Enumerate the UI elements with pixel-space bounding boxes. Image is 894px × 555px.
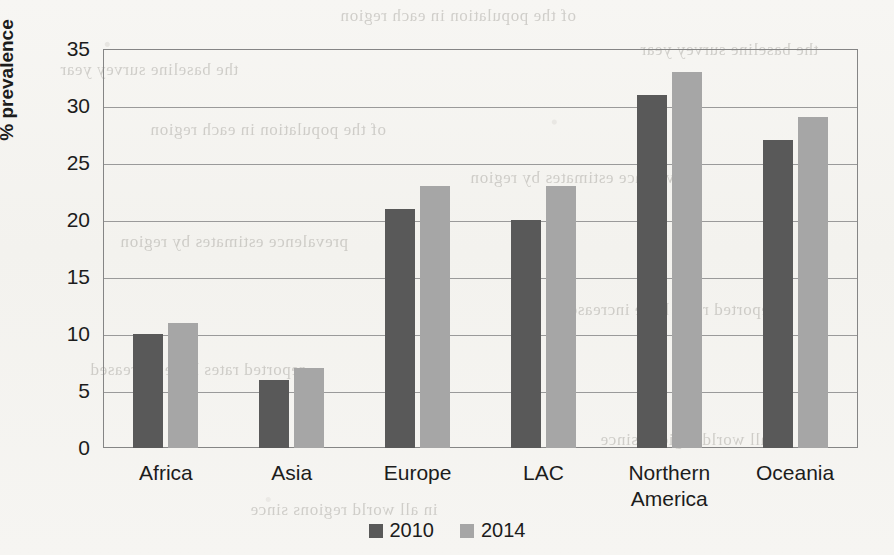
y-axis-title: % prevalence: [0, 0, 18, 170]
bar-2010-europe[interactable]: [385, 209, 415, 448]
bar-group: [763, 49, 828, 448]
legend-label: 2014: [481, 519, 526, 542]
bar-2014-lac[interactable]: [546, 186, 576, 448]
y-axis-tick-labels: 05101520253035: [28, 0, 90, 555]
x-axis-tick-label: Northern America: [606, 460, 732, 512]
bar-2014-oceania[interactable]: [798, 117, 828, 448]
y-axis-tick-label: 0: [32, 436, 90, 460]
bar-series-container: [103, 49, 858, 448]
bar-2010-africa[interactable]: [133, 334, 163, 448]
x-axis-tick-label: LAC: [481, 460, 607, 486]
bar-group: [637, 49, 702, 448]
x-axis-tick-label: Oceania: [732, 460, 858, 486]
bar-2014-asia[interactable]: [294, 368, 324, 448]
x-axis-tick-label: Africa: [103, 460, 229, 486]
x-axis-tick-label: Europe: [355, 460, 481, 486]
bar-2010-asia[interactable]: [259, 380, 289, 448]
bar-2014-africa[interactable]: [168, 323, 198, 448]
bar-chart: 05101520253035 % prevalence AfricaAsiaEu…: [0, 0, 894, 555]
chart-legend: 20102014: [0, 519, 894, 542]
y-axis-tick-label: 15: [32, 265, 90, 289]
y-axis-tick-label: 20: [32, 208, 90, 232]
bar-2014-europe[interactable]: [420, 186, 450, 448]
y-axis-tick-label: 35: [32, 37, 90, 61]
bar-group: [385, 49, 450, 448]
bar-group: [511, 49, 576, 448]
legend-swatch-icon: [460, 524, 474, 538]
legend-item-2010[interactable]: 2010: [369, 519, 435, 542]
bar-2010-oceania[interactable]: [763, 140, 793, 448]
legend-label: 2010: [390, 519, 435, 542]
legend-item-2014[interactable]: 2014: [460, 519, 526, 542]
bar-2010-northern-america[interactable]: [637, 95, 667, 448]
legend-swatch-icon: [369, 524, 383, 538]
bar-group: [133, 49, 198, 448]
x-axis-tick-label: Asia: [229, 460, 355, 486]
y-axis-tick-label: 30: [32, 94, 90, 118]
bar-2014-northern-america[interactable]: [672, 72, 702, 448]
bar-group: [259, 49, 324, 448]
y-axis-tick-label: 5: [32, 379, 90, 403]
bar-2010-lac[interactable]: [511, 220, 541, 448]
y-axis-tick-label: 10: [32, 322, 90, 346]
y-axis-tick-label: 25: [32, 151, 90, 175]
